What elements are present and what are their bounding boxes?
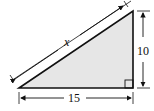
- vertical-leg-label: 10: [137, 44, 149, 58]
- horizontal-leg-label: 15: [68, 91, 80, 105]
- right-triangle: [19, 11, 133, 88]
- triangle-diagram: x 10 15: [0, 0, 154, 111]
- hypotenuse-label: x: [63, 35, 70, 49]
